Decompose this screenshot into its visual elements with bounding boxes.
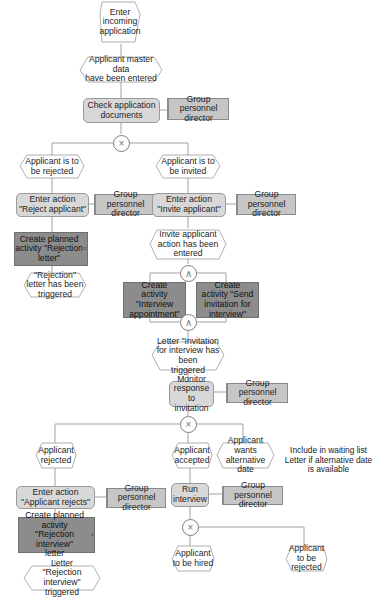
xor-connector-icon[interactable]: × — [113, 135, 130, 152]
event-applicant-to-be-rejected-final[interactable]: Applicant to be rejected — [286, 546, 327, 571]
event-rejection-interview-triggered[interactable]: Letter "Rejection interview" triggered — [24, 566, 100, 590]
activity-create-send-invitation[interactable]: Create activity "Send invitation for int… — [196, 282, 259, 318]
org-unit-group-personnel-director[interactable]: Group personnel director — [94, 194, 156, 215]
cropped-caption — [150, 590, 377, 596]
event-enter-incoming-application[interactable]: Enter incoming application — [100, 2, 140, 42]
and-connector-icon[interactable]: ∧ — [180, 265, 197, 282]
org-unit-group-personnel-director[interactable]: Group personnel director — [106, 488, 166, 508]
function-enter-action-applicant-rejects[interactable]: Enter action "Applicant rejects" — [16, 486, 95, 509]
function-check-application-documents[interactable]: Check application documents — [83, 98, 160, 123]
org-unit-group-personnel-director[interactable]: Group personnel director — [236, 194, 296, 215]
event-applicant-wants-alternative-date[interactable]: Applicant wants alternative date — [217, 443, 274, 468]
event-applicant-rejected[interactable]: Applicant rejected — [36, 443, 76, 468]
activity-create-rejection-letter[interactable]: Create planned activity "Rejection lette… — [14, 232, 88, 266]
activity-create-interview-appointment[interactable]: Create activity "Interview appointment" — [123, 282, 186, 318]
org-unit-group-personnel-director[interactable]: Group personnel director — [222, 486, 283, 505]
event-applicant-to-be-hired[interactable]: Applicant to be hired — [172, 546, 214, 571]
function-monitor-response[interactable]: Monitor response to invitation — [169, 381, 214, 407]
activity-create-rejection-interview-letter[interactable]: Create planned activity "Rejection inter… — [18, 517, 95, 553]
annotation-waiting-list: Include in waiting list Letter if altern… — [280, 446, 377, 475]
event-invite-action-entered[interactable]: Invite applicant action has been entered — [150, 230, 226, 259]
function-enter-action-reject-applicant[interactable]: Enter action "Reject applicant" — [16, 193, 89, 217]
xor-connector-icon[interactable]: × — [180, 416, 197, 433]
event-applicant-to-be-rejected[interactable]: Applicant is to be rejected — [20, 155, 84, 178]
document-icon: ≡ — [91, 530, 94, 540]
org-unit-group-personnel-director[interactable]: Group personnel director — [226, 383, 288, 403]
function-run-interview[interactable]: Run interview — [171, 483, 209, 507]
xor-connector-icon[interactable]: × — [182, 519, 199, 536]
org-unit-group-personnel-director[interactable]: Group personnel director — [167, 98, 229, 120]
function-enter-action-invite-applicant[interactable]: Enter action "Invite applicant" — [152, 193, 226, 217]
event-master-data-entered[interactable]: Applicant master data have been entered — [80, 57, 162, 82]
document-icon: ≡ — [84, 244, 87, 254]
event-applicant-accepted[interactable]: Applicant accepted — [172, 443, 212, 468]
epc-diagram: Enter incoming application Applicant mas… — [0, 0, 377, 603]
event-invitation-letter-triggered[interactable]: Letter "Invitation for interview has bee… — [152, 342, 224, 370]
event-rejection-letter-triggered[interactable]: "Rejection" letter has been triggered — [24, 273, 86, 297]
event-applicant-to-be-invited[interactable]: Applicant is to be invited — [156, 155, 220, 178]
